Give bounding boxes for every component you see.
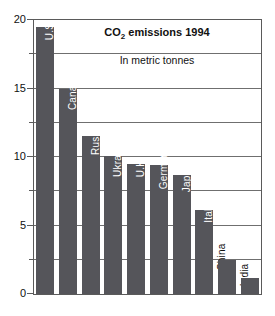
co2-emissions-bar-chart: U.S.CanadaRussiaUkraineU.K.GermanyJapanI… [0, 0, 275, 316]
chart-title-prefix: CO [104, 26, 121, 38]
bar-label-u-k: U.K. [136, 157, 146, 177]
y-axis-tick-minor [29, 122, 33, 123]
y-axis-label-5: 5 [2, 220, 26, 231]
bar-label-ukraine: Ukraine [113, 141, 123, 177]
y-axis-label-15: 15 [2, 83, 26, 94]
y-axis-tick-minor [29, 190, 33, 191]
bar-label-italy: Italy [204, 204, 214, 223]
bar-russia[interactable]: Russia [82, 136, 100, 294]
y-axis-tick-minor [29, 53, 33, 54]
y-axis-tick-major [27, 225, 33, 226]
y-axis-label-20: 20 [2, 14, 26, 25]
y-axis-tick-major [27, 88, 33, 89]
bar-china[interactable] [218, 260, 236, 294]
chart-title-suffix: emissions 1994 [125, 26, 209, 38]
bar-u-s[interactable]: U.S. [36, 27, 54, 294]
bar-label-canada: Canada [68, 73, 78, 109]
bar-u-k[interactable]: U.K. [127, 164, 145, 294]
bar-germany[interactable]: Germany [150, 165, 168, 294]
bar-japan[interactable]: Japan [173, 175, 191, 294]
bar-label-russia: Russia [91, 124, 101, 156]
y-axis-label-10: 10 [2, 151, 26, 162]
bar-label-germany: Germany [159, 147, 169, 190]
bar-india[interactable] [241, 278, 259, 294]
bar-label-u-s: U.S. [45, 20, 55, 40]
bar-label-japan: Japan [182, 164, 192, 192]
y-axis-label-0: 0 [2, 288, 26, 299]
y-axis-tick-major [27, 19, 33, 20]
chart-subtitle: In metric tonnes [62, 54, 252, 66]
bar-italy[interactable]: Italy [195, 210, 213, 294]
bar-canada[interactable]: Canada [59, 89, 77, 295]
y-axis-tick-minor [29, 259, 33, 260]
y-axis-tick-major [27, 156, 33, 157]
chart-title: CO2 emissions 1994 [62, 26, 252, 41]
bar-ukraine[interactable]: Ukraine [104, 156, 122, 294]
y-axis-tick-major [27, 293, 33, 294]
